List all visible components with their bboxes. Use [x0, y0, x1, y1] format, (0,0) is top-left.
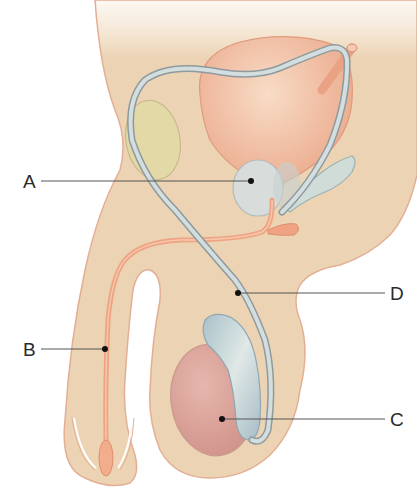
ureter-opening: [347, 44, 357, 52]
label-d: D: [390, 284, 404, 303]
label-b: B: [23, 340, 36, 359]
label-a: A: [23, 172, 36, 191]
anatomy-diagram: [0, 0, 417, 500]
urethra-tip: [99, 440, 113, 476]
label-c: C: [390, 410, 404, 429]
